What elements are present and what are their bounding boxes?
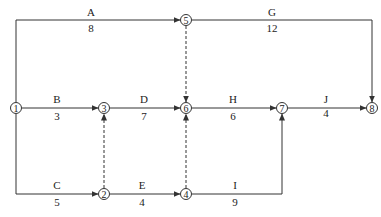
activity-c-name: C: [53, 179, 60, 191]
activity-a-name: A: [87, 6, 95, 18]
node-5-label: 5: [184, 15, 189, 26]
activity-a-arrow: [16, 20, 180, 102]
network-diagram: 1 2 3 4 5 6 7 8 A 8 G 12 B 3 D 7 H 6 J 4…: [0, 0, 381, 217]
activity-i-arrow: [192, 114, 282, 194]
node-7-label: 7: [280, 103, 285, 114]
node-4-label: 4: [184, 189, 189, 200]
activity-i-name: I: [233, 179, 237, 191]
node-6-label: 6: [184, 103, 189, 114]
activity-c-duration: 5: [54, 196, 60, 208]
activity-a-duration: 8: [88, 22, 94, 34]
node-2-label: 2: [102, 189, 107, 200]
activity-d-duration: 7: [141, 110, 147, 122]
activity-e-duration: 4: [139, 196, 145, 208]
activity-g-arrow: [192, 20, 372, 102]
activity-h-name: H: [229, 93, 237, 105]
activity-j-duration: 4: [323, 107, 329, 119]
activity-e-name: E: [139, 179, 146, 191]
node-8-label: 8: [370, 103, 375, 114]
activity-i-duration: 9: [232, 196, 238, 208]
activity-j-name: J: [324, 93, 329, 105]
node-1-label: 1: [14, 103, 19, 114]
activity-g-duration: 12: [267, 22, 278, 34]
activity-h-duration: 6: [230, 110, 236, 122]
activity-b-name: B: [53, 93, 60, 105]
activity-g-name: G: [268, 6, 276, 18]
activity-d-name: D: [140, 93, 148, 105]
activity-b-duration: 3: [54, 110, 60, 122]
node-3-label: 3: [102, 103, 107, 114]
